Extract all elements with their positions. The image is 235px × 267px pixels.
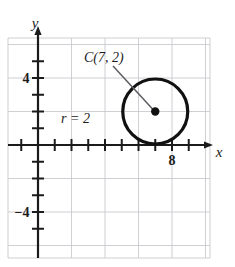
y-axis-label: y <box>30 15 39 31</box>
radius-label: r = 2 <box>61 111 90 126</box>
center-coordinate-label: C(7, 2) <box>84 50 124 66</box>
center-point-marker <box>151 107 159 115</box>
y-tick-label-4: 4 <box>23 71 30 86</box>
coordinate-plane-svg: y x 4 −4 8 C(7, 2) r = 2 <box>0 0 235 267</box>
y-tick-label-neg4: −4 <box>15 205 30 220</box>
x-axis-label: x <box>215 144 223 160</box>
coordinate-plane-figure: y x 4 −4 8 C(7, 2) r = 2 <box>0 0 235 267</box>
x-tick-label-8: 8 <box>169 153 176 168</box>
